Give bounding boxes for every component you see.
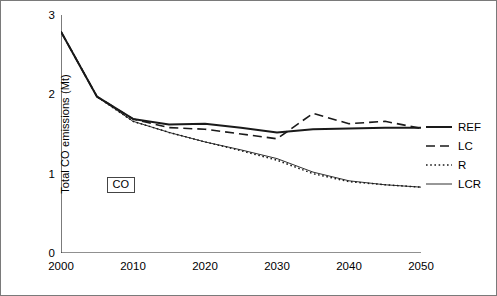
- legend-swatch-lcr: [425, 178, 453, 190]
- x-tick-label: 2050: [408, 260, 434, 272]
- series-line-lcr: [61, 32, 421, 187]
- legend-swatch-r: [425, 159, 453, 171]
- plot-area: Total CO emissions (Mt) 0123 20002010202…: [61, 15, 421, 253]
- y-axis-label: Total CO emissions (Mt): [59, 15, 75, 253]
- annotation-co: CO: [107, 177, 136, 194]
- y-tick-label: 2: [49, 88, 55, 100]
- y-tick-label: 3: [49, 9, 55, 21]
- legend-item-ref: REF: [425, 117, 495, 136]
- y-tick-label: 0: [49, 247, 55, 259]
- x-tick-label: 2010: [120, 260, 146, 272]
- legend-label: R: [458, 159, 466, 171]
- legend-swatch-ref: [425, 121, 453, 133]
- x-tick-label: 2000: [48, 260, 74, 272]
- data-series: [61, 32, 421, 187]
- legend-label: LCR: [458, 178, 481, 190]
- legend-item-lcr: LCR: [425, 174, 495, 193]
- legend-item-r: R: [425, 155, 495, 174]
- legend-label: REF: [458, 121, 481, 133]
- x-tick-label: 2020: [192, 260, 218, 272]
- series-line-lc: [61, 32, 421, 139]
- legend-swatch-lc: [425, 140, 453, 152]
- x-tick-label: 2040: [336, 260, 362, 272]
- series-line-ref: [61, 32, 421, 133]
- x-tick-label: 2030: [264, 260, 290, 272]
- chart-container: Total CO emissions (Mt) 0123 20002010202…: [0, 0, 497, 296]
- chart-legend: REFLCRLCR: [425, 117, 495, 193]
- plot-svg: [61, 15, 421, 253]
- y-tick-label: 1: [49, 168, 55, 180]
- legend-item-lc: LC: [425, 136, 495, 155]
- legend-label: LC: [458, 140, 473, 152]
